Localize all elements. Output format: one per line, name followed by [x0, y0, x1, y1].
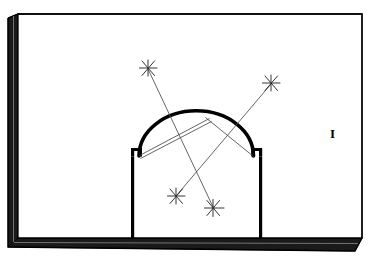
- frame-inner-face: [18, 14, 362, 238]
- figure-canvas: [0, 0, 374, 259]
- plate-number-label: I: [330, 127, 336, 140]
- figure-root: I: [0, 0, 374, 259]
- slab-frame: [8, 14, 362, 251]
- frame-left-edge: [8, 14, 18, 247]
